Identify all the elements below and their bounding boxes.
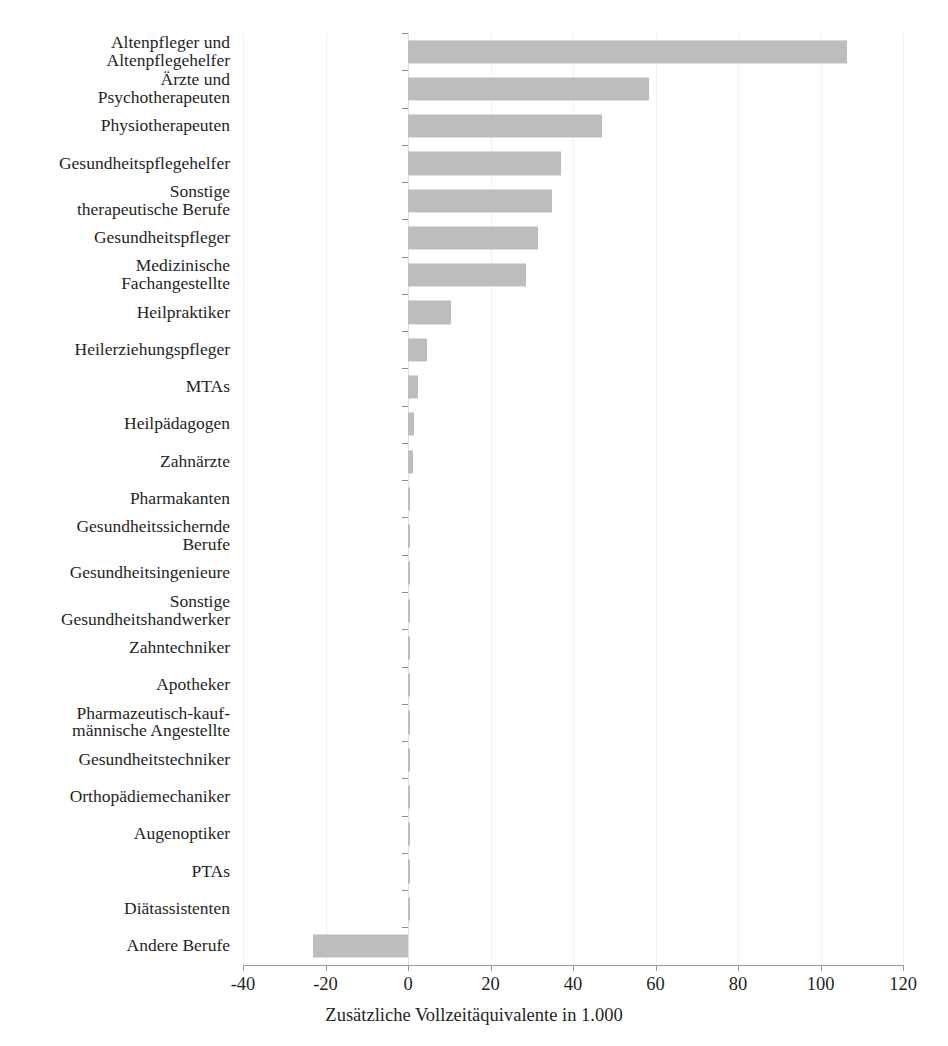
bar-row: [243, 629, 903, 666]
category-label: Heilpraktiker: [0, 294, 238, 331]
x-axis-tick-label: -40: [213, 974, 273, 995]
bar: [408, 562, 410, 585]
x-axis-tick: [491, 965, 492, 971]
bar-row: [243, 257, 903, 294]
category-label: Gesundheitspfleger: [0, 219, 238, 256]
category-label: Apotheker: [0, 667, 238, 704]
y-axis-tick: [402, 294, 408, 295]
category-label: Andere Berufe: [0, 927, 238, 964]
plot-area: [243, 33, 903, 965]
y-axis-tick: [402, 257, 408, 258]
bar-row: [243, 853, 903, 890]
category-label: PTAs: [0, 853, 238, 890]
category-label: Zahnärzte: [0, 443, 238, 480]
y-axis-tick: [402, 927, 408, 928]
bar-row: [243, 704, 903, 741]
bar: [408, 599, 410, 622]
gridline: [903, 33, 904, 965]
y-axis-tick: [402, 70, 408, 71]
y-axis-tick: [402, 406, 408, 407]
category-label: Gesundheitsingenieure: [0, 555, 238, 592]
category-label: Sonstige therapeutische Berufe: [0, 182, 238, 219]
bar-row: [243, 294, 903, 331]
x-axis-tick-label: 100: [791, 974, 851, 995]
x-axis-tick: [243, 965, 244, 971]
bar-row: [243, 741, 903, 778]
bar-row: [243, 480, 903, 517]
y-axis-tick: [402, 629, 408, 630]
x-axis-title: Zusätzliche Vollzeitäquivalente in 1.000: [0, 1005, 948, 1026]
bar: [408, 487, 410, 510]
category-label: Heilpädagogen: [0, 406, 238, 443]
bar-row: [243, 667, 903, 704]
bar-rows: [243, 33, 903, 965]
bar: [408, 115, 602, 138]
category-label: Pharmakanten: [0, 480, 238, 517]
x-axis-tick: [573, 965, 574, 971]
y-axis-tick: [402, 517, 408, 518]
category-label: Medizinische Fachangestellte: [0, 257, 238, 294]
bar: [408, 301, 451, 324]
y-axis-tick: [402, 667, 408, 668]
y-axis-tick: [402, 145, 408, 146]
bar-row: [243, 592, 903, 629]
bar: [408, 226, 538, 249]
bar: [408, 897, 410, 920]
bar-row: [243, 145, 903, 182]
bar: [408, 674, 410, 697]
category-label: Gesundheitstechniker: [0, 741, 238, 778]
y-axis-tick: [402, 890, 408, 891]
y-axis-tick: [402, 480, 408, 481]
y-axis-tick: [402, 592, 408, 593]
bar: [408, 785, 410, 808]
y-axis-tick: [402, 182, 408, 183]
y-axis-tick: [402, 331, 408, 332]
bar: [408, 711, 410, 734]
bar-row: [243, 816, 903, 853]
x-axis-tick: [821, 965, 822, 971]
category-label: Zahntechniker: [0, 629, 238, 666]
category-label: Gesundheitspflegehelfer: [0, 145, 238, 182]
category-label: MTAs: [0, 368, 238, 405]
bar-row: [243, 182, 903, 219]
bar-row: [243, 368, 903, 405]
y-axis-tick: [402, 108, 408, 109]
x-axis-tick-label: 0: [378, 974, 438, 995]
category-label: Pharmazeutisch-kauf- männische Angestell…: [0, 704, 238, 741]
bar: [408, 748, 410, 771]
x-axis-tick: [326, 965, 327, 971]
bar: [408, 189, 552, 212]
bar-row: [243, 406, 903, 443]
category-label: Gesundheitssichernde Berufe: [0, 517, 238, 554]
x-axis-tick: [656, 965, 657, 971]
y-axis-tick: [402, 219, 408, 220]
category-label: Altenpfleger und Altenpflegehelfer: [0, 33, 238, 70]
x-axis-tick: [903, 965, 904, 971]
bar: [408, 525, 410, 548]
y-axis-tick: [402, 443, 408, 444]
x-axis-tick: [408, 965, 409, 971]
y-axis-tick: [402, 555, 408, 556]
x-axis-tick-label: 60: [626, 974, 686, 995]
y-axis-tick: [402, 741, 408, 742]
bar: [408, 636, 410, 659]
bar-row: [243, 517, 903, 554]
bar-row: [243, 555, 903, 592]
x-axis-tick-label: 80: [708, 974, 768, 995]
category-label: Physiotherapeuten: [0, 108, 238, 145]
bar: [408, 860, 410, 883]
category-label: Ärzte und Psychotherapeuten: [0, 70, 238, 107]
y-axis-tick: [402, 33, 408, 34]
bar: [408, 40, 847, 63]
bar: [408, 823, 410, 846]
bar: [408, 450, 413, 473]
bar: [313, 934, 408, 957]
y-axis-tick: [402, 816, 408, 817]
x-axis-tick-label: 20: [461, 974, 521, 995]
category-label: Heilerziehungspfleger: [0, 331, 238, 368]
bar: [408, 77, 649, 100]
x-axis-tick-label: -20: [296, 974, 356, 995]
x-axis-tick-label: 120: [873, 974, 933, 995]
bar: [408, 264, 526, 287]
category-label: Augenoptiker: [0, 816, 238, 853]
